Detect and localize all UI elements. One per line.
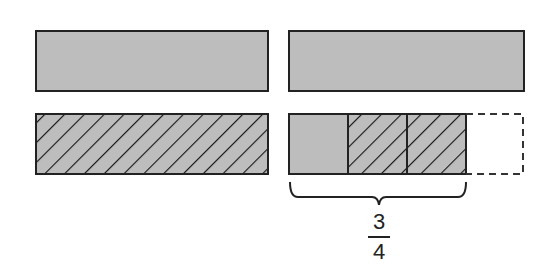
segment-4-dashed <box>466 114 523 174</box>
fraction-diagram <box>0 0 557 276</box>
brace-icon <box>290 182 466 205</box>
fraction-denominator: 4 <box>364 240 394 264</box>
segment-2-hatched <box>348 114 407 174</box>
right-bottom-bar <box>289 114 523 174</box>
right-top-bar <box>289 31 524 91</box>
left-bottom-bar-hatched <box>36 114 268 174</box>
left-top-bar <box>36 31 268 91</box>
segment-1-solid <box>289 114 348 174</box>
fraction-numerator: 3 <box>364 210 394 234</box>
fraction-bar <box>368 236 390 238</box>
segment-3-hatched <box>407 114 466 174</box>
fraction-label: 3 4 <box>364 210 394 264</box>
